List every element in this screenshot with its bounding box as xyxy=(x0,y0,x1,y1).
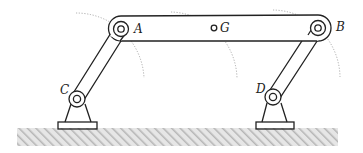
label-A: A xyxy=(133,22,143,36)
support-D-base-plate xyxy=(256,122,294,129)
ground-hatch xyxy=(17,128,338,146)
label-D: D xyxy=(255,82,266,96)
support-D xyxy=(256,103,294,129)
pin-C xyxy=(69,91,85,107)
support-C-base-plate xyxy=(58,122,97,129)
pin-A xyxy=(114,22,129,37)
pin-B xyxy=(311,21,326,36)
label-G: G xyxy=(220,21,230,35)
pin-D xyxy=(265,89,281,105)
support-D-body xyxy=(262,103,287,122)
label-B: B xyxy=(335,20,345,34)
mass-center-G-marker xyxy=(211,25,217,31)
support-C xyxy=(58,104,97,129)
four-bar-linkage-diagram: A G B C D xyxy=(0,0,363,153)
label-C: C xyxy=(60,83,69,97)
